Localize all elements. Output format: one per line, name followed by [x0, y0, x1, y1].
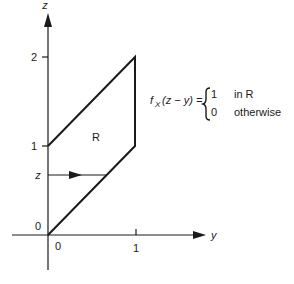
region-r-boundary	[48, 57, 135, 235]
y-tick-label-1: 1	[133, 242, 139, 254]
formula-f: f	[150, 94, 154, 106]
formula-subscript: X	[154, 100, 161, 109]
z-level-label: z	[34, 169, 41, 181]
formula-brace-icon	[203, 88, 210, 120]
diagram-canvas: z y 2 1 0 0 1 R z f X (z − y) = 1 in R 0…	[0, 0, 294, 284]
z-tick-label-1: 1	[31, 140, 37, 152]
density-formula: f X (z − y) = 1 in R 0 otherwise	[150, 88, 281, 120]
z-level-arrowhead-icon	[69, 171, 82, 179]
formula-case1-condition: in R	[234, 88, 254, 100]
formula-case2-condition: otherwise	[234, 106, 281, 118]
formula-argument: (z − y) =	[162, 94, 203, 106]
z-axis-label: z	[41, 0, 48, 11]
formula-case2-value: 0	[211, 106, 217, 118]
y-tick-label-0: 0	[55, 240, 61, 252]
region-r-label: R	[92, 131, 100, 143]
z-tick-label-0: 0	[35, 220, 41, 232]
z-axis-arrowhead-icon	[44, 13, 52, 27]
y-axis-label: y	[210, 229, 218, 241]
y-axis-arrowhead-icon	[193, 231, 206, 239]
formula-case1-value: 1	[211, 88, 217, 100]
z-tick-label-2: 2	[31, 51, 37, 63]
